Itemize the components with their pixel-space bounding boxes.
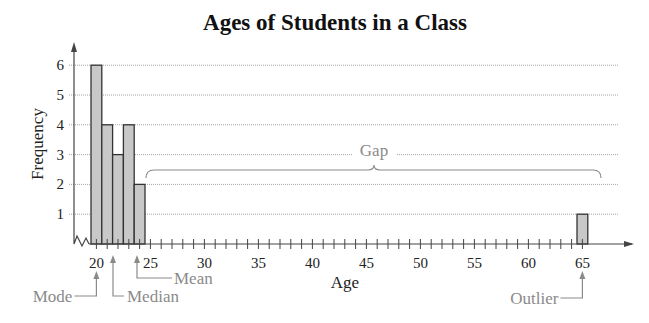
annotation-outlier: Outlier — [510, 289, 558, 308]
gridlines — [69, 65, 618, 214]
y-tick-label: 3 — [57, 147, 65, 163]
bar-age-21 — [102, 125, 113, 244]
axis-break-icon — [74, 224, 89, 246]
y-tick-labels: 123456 — [57, 57, 65, 222]
annotation-leader — [560, 277, 582, 298]
annotation-leader — [74, 277, 96, 296]
y-tick-label: 6 — [57, 57, 65, 73]
x-tick-label: 50 — [413, 255, 428, 271]
y-tick-label: 1 — [57, 206, 65, 222]
y-axis-label: Frequency — [28, 108, 47, 180]
bar-age-24 — [134, 184, 145, 244]
x-tick-label: 65 — [575, 255, 590, 271]
y-axis-arrow-icon — [71, 42, 77, 52]
y-tick-label: 5 — [57, 87, 65, 103]
chart-title: Ages of Students in a Class — [203, 10, 467, 35]
x-tick-label: 60 — [521, 255, 536, 271]
x-tick-label: 20 — [89, 255, 104, 271]
y-tick-label: 2 — [57, 176, 65, 192]
x-tick-label: 25 — [143, 255, 158, 271]
annotation-leader — [113, 261, 124, 296]
y-tick-label: 4 — [57, 117, 65, 133]
bar-age-23 — [123, 125, 134, 244]
x-axis-label: Age — [331, 273, 359, 292]
x-tick-label: 55 — [467, 255, 482, 271]
x-axis-arrow-icon — [624, 241, 634, 247]
annotation-gap: Gap — [360, 141, 388, 160]
histogram-chart: Ages of Students in a Class 123456 20253… — [0, 0, 649, 323]
x-tick-label: 40 — [305, 255, 320, 271]
x-tick-labels: 20253035404550556065 — [89, 255, 590, 271]
annotation-leader — [146, 165, 601, 178]
annotation-mode: Mode — [33, 287, 73, 306]
annotation-mean: Mean — [174, 269, 213, 288]
annotation-median: Median — [127, 287, 179, 306]
bar-age-20 — [91, 65, 102, 244]
x-tick-label: 45 — [359, 255, 374, 271]
bar-age-22 — [113, 155, 124, 244]
x-tick-label: 35 — [251, 255, 266, 271]
